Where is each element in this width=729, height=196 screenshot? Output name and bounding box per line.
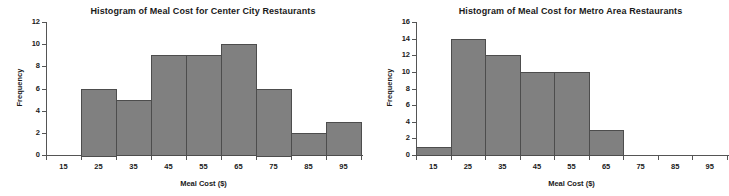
x-axis-tick-label: 95 xyxy=(695,162,725,171)
x-axis-tick-label: 55 xyxy=(189,162,219,171)
x-axis-tick-label: 25 xyxy=(84,162,114,171)
x-axis-tick xyxy=(46,156,47,160)
histogram-bar xyxy=(520,72,555,156)
x-axis-tick-label: 75 xyxy=(626,162,656,171)
x-axis-tick xyxy=(727,156,728,160)
x-axis-tick xyxy=(658,156,659,160)
x-axis-tick xyxy=(589,156,590,160)
x-axis-tick-label: 85 xyxy=(660,162,690,171)
x-axis-tick xyxy=(692,156,693,160)
x-axis-tick-label: 25 xyxy=(453,162,483,171)
histogram-bar xyxy=(186,55,222,156)
x-axis-label: Meal Cost ($) xyxy=(416,179,727,188)
x-axis-tick xyxy=(623,156,624,160)
y-axis-tick xyxy=(42,44,46,45)
histogram-bar xyxy=(451,39,486,156)
y-axis-tick-label: 2 xyxy=(386,133,410,142)
y-axis-tick xyxy=(42,89,46,90)
y-axis-tick xyxy=(412,89,416,90)
y-axis-tick xyxy=(412,55,416,56)
y-axis-tick xyxy=(412,72,416,73)
histogram-bar xyxy=(554,72,590,156)
y-axis-tick xyxy=(42,22,46,23)
chart-panel-center-city: Histogram of Meal Cost for Center City R… xyxy=(0,0,364,196)
x-axis-tick xyxy=(221,156,222,160)
histogram-bar xyxy=(589,130,624,156)
histogram-bar xyxy=(326,122,362,156)
x-axis-tick xyxy=(186,156,187,160)
plot-area: 0246810121416152535455565758595Meal Cost… xyxy=(416,22,727,155)
x-axis-tick xyxy=(326,156,327,160)
x-axis-tick xyxy=(151,156,152,160)
x-axis-tick-label: 15 xyxy=(49,162,79,171)
histogram-bar xyxy=(151,55,187,156)
x-axis-tick-label: 65 xyxy=(224,162,254,171)
x-axis-tick-label: 75 xyxy=(259,162,289,171)
chart-panel-metro-area: Histogram of Meal Cost for Metro Area Re… xyxy=(364,0,729,196)
y-axis-tick xyxy=(42,66,46,67)
histogram-bar xyxy=(485,55,521,156)
histogram-figure-row: Histogram of Meal Cost for Center City R… xyxy=(0,0,729,196)
y-axis-line xyxy=(416,22,417,156)
x-axis-tick-label: 65 xyxy=(591,162,621,171)
x-axis-tick xyxy=(520,156,521,160)
y-axis-tick xyxy=(42,133,46,134)
y-axis-tick-label: 16 xyxy=(386,17,410,26)
x-axis-tick xyxy=(361,156,362,160)
chart-title: Histogram of Meal Cost for Metro Area Re… xyxy=(364,6,729,16)
x-axis-tick xyxy=(416,156,417,160)
histogram-bar xyxy=(256,89,292,157)
histogram-bar xyxy=(81,89,117,157)
x-axis-tick-label: 45 xyxy=(154,162,184,171)
chart-title: Histogram of Meal Cost for Center City R… xyxy=(0,6,364,16)
histogram-bar xyxy=(116,100,152,156)
histogram-bar xyxy=(416,147,452,156)
y-axis-tick xyxy=(42,111,46,112)
histogram-bar xyxy=(221,44,257,156)
y-axis-label: Frequency xyxy=(15,52,24,122)
x-axis-tick xyxy=(485,156,486,160)
x-axis-tick-label: 35 xyxy=(119,162,149,171)
x-axis-tick-label: 35 xyxy=(487,162,517,171)
y-axis-tick-label: 14 xyxy=(386,34,410,43)
plot-area: 024681012152535455565758595Meal Cost ($)… xyxy=(46,22,361,155)
y-axis-tick-label: 0 xyxy=(16,150,40,159)
x-axis-tick-label: 85 xyxy=(294,162,324,171)
x-axis-label: Meal Cost ($) xyxy=(46,179,361,188)
x-axis-tick xyxy=(554,156,555,160)
y-axis-tick xyxy=(412,138,416,139)
histogram-bar xyxy=(291,133,327,156)
y-axis-tick-label: 2 xyxy=(16,128,40,137)
x-axis-tick-label: 95 xyxy=(329,162,359,171)
y-axis-tick xyxy=(412,122,416,123)
y-axis-tick-label: 0 xyxy=(386,150,410,159)
y-axis-tick-label: 12 xyxy=(16,17,40,26)
y-axis-tick xyxy=(412,105,416,106)
y-axis-line xyxy=(46,22,47,156)
x-axis-tick xyxy=(451,156,452,160)
y-axis-tick-label: 10 xyxy=(16,39,40,48)
x-axis-tick-label: 55 xyxy=(557,162,587,171)
x-axis-tick-label: 15 xyxy=(418,162,448,171)
y-axis-tick xyxy=(412,39,416,40)
x-axis-tick-label: 45 xyxy=(522,162,552,171)
y-axis-label: Frequency xyxy=(385,52,394,122)
y-axis-tick xyxy=(412,22,416,23)
